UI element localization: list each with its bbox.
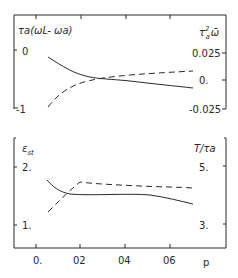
bottom-left-tick-2: 2.: [22, 162, 32, 173]
x-tick-06: 06: [163, 255, 176, 266]
bottom-right-axis-label: T/τa: [194, 143, 216, 154]
top-left-tick-0: 0: [22, 46, 28, 57]
bottom-right-tick-5: 5.: [199, 162, 209, 173]
bottom-left-tick-1: 1.: [22, 220, 32, 231]
x-axis-label: p: [203, 257, 209, 268]
bottom-panel-frame: [14, 138, 226, 248]
top-panel-labels: τa(ωL- ωa) 0 -1 τ2aω̄ 0.025 0. -0.025: [16, 25, 221, 115]
x-tick-0: 0.: [33, 255, 43, 266]
top-dashed-curve: [48, 71, 193, 107]
bottom-dashed-curve: [48, 182, 193, 212]
top-right-axis-label: τ2aω̄: [199, 25, 219, 41]
bottom-solid-curve: [47, 180, 193, 204]
top-left-axis-label: τa(ωL- ωa): [18, 25, 72, 36]
subscript: a: [206, 33, 210, 41]
bottom-panel-labels: εst 2. 1. T/τa 5. 3. 0. 02 04 06 p: [22, 143, 216, 268]
x-tick-02: 02: [73, 255, 86, 266]
top-right-tick-0: 0.: [199, 75, 209, 86]
figure: τa(ωL- ωa) 0 -1 τ2aω̄ 0.025 0. -0.025 εs…: [0, 0, 238, 278]
top-right-tick-p: 0.025: [192, 48, 221, 59]
bottom-left-axis-label: εst: [22, 143, 34, 157]
top-left-tick-m1: -1: [16, 104, 26, 115]
x-tick-04: 04: [118, 255, 131, 266]
top-right-tick-m: -0.025: [189, 104, 221, 115]
superscript: 2: [205, 25, 210, 33]
bottom-right-tick-3: 3.: [199, 220, 209, 231]
subscript-st: st: [27, 149, 34, 157]
omega-bar: ω̄: [211, 27, 219, 38]
bottom-panel: [14, 138, 226, 248]
